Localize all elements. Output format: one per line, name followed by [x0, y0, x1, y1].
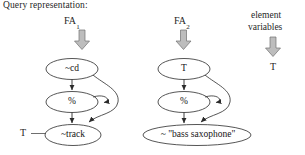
element-variables-block-arrow-icon [266, 37, 281, 57]
fa1-header-text: FA [64, 15, 76, 26]
element-variable-value: T [270, 62, 276, 72]
element-variables-label-line1: element [251, 11, 281, 21]
node-bass-saxophone-label: ~ "bass saxophone" [142, 130, 254, 140]
fa1-header: FA1 [64, 16, 80, 29]
fa1-block-arrow-icon [75, 30, 90, 50]
fa2-block-arrow-icon [176, 30, 191, 50]
element-variables-label-line2: variables [248, 23, 282, 33]
node-percent2-label: % [160, 97, 208, 107]
fa2-header: FA2 [174, 16, 190, 29]
node-t-label: T [160, 64, 208, 74]
fa2-header-text: FA [174, 15, 186, 26]
fa1-header-subscript: 1 [76, 23, 80, 31]
node-percent1-label: % [48, 97, 96, 107]
node-cd-label: ~cd [48, 64, 96, 74]
node-track-label: ~track [40, 130, 106, 140]
fa1-side-variable-label: T [20, 128, 26, 138]
page-title: Query representation: [3, 1, 88, 11]
fa2-header-subscript: 2 [186, 23, 190, 31]
